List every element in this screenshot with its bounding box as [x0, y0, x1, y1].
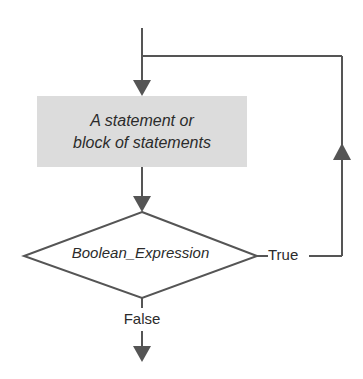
condition-arrowhead	[133, 196, 151, 212]
statement-box-label: A statement or block of statements	[37, 96, 247, 167]
false-label: False	[120, 310, 164, 327]
exit-arrowhead	[133, 346, 151, 362]
statement-line-2: block of statements	[73, 132, 211, 154]
statement-line-1: A statement or	[90, 110, 193, 132]
entry-arrowhead	[133, 80, 151, 96]
flowchart-canvas	[0, 0, 363, 379]
loop-up-arrowhead	[333, 143, 351, 160]
true-label: True	[268, 246, 298, 263]
condition-label: Boolean_Expression	[24, 244, 257, 261]
